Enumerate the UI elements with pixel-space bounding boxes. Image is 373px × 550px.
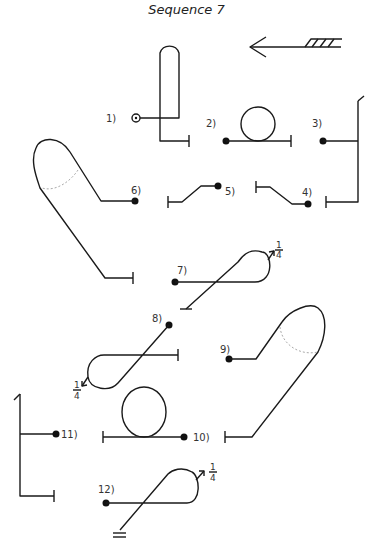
step-4-label: 4) [302, 187, 312, 198]
step-12-rotation-numerator: 1 [210, 462, 216, 472]
step-2-figure [223, 107, 292, 147]
step-8-rotation-numerator: 1 [74, 380, 80, 390]
step-8-figure [82, 322, 178, 389]
step-10-label: 10) [193, 432, 210, 443]
step-8-label: 8) [152, 313, 162, 324]
step-12-rotation-denominator: 4 [210, 473, 216, 483]
step-2-label: 2) [206, 118, 216, 129]
step-6-figure [33, 139, 138, 284]
step-5-label: 5) [225, 186, 235, 197]
step-9-label: 9) [220, 344, 230, 355]
step-6-label: 6) [131, 185, 141, 196]
step-11-figure [14, 394, 60, 502]
step-8-rotation-denominator: 4 [74, 391, 80, 401]
step-1-label: 1) [106, 113, 116, 124]
sequence-diagram: 1) 2) 3) 4) 5) 6) [0, 0, 373, 550]
step-11-label: 11) [61, 429, 78, 440]
step-7-figure [172, 251, 275, 309]
step-7-rotation-numerator: 1 [276, 240, 282, 250]
step-7-label: 7) [177, 265, 187, 276]
step-5-figure [168, 183, 222, 209]
step-3-label: 3) [312, 118, 322, 129]
step-3-figure [320, 96, 365, 208]
step-12-figure [103, 469, 205, 537]
step-12-label: 12) [98, 484, 115, 495]
step-10-figure [103, 387, 188, 443]
step-1-figure [132, 46, 189, 147]
step-7-rotation-denominator: 4 [276, 250, 282, 260]
step-9-figure [225, 306, 325, 443]
direction-arrow-icon [250, 37, 342, 57]
